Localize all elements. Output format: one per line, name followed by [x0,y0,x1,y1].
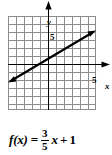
fraction-denominator: 5 [41,141,49,152]
equation-operator: + [60,132,67,148]
y-axis-tick-label-5: 5 [50,33,55,42]
equation-variable: x [52,132,59,148]
fraction-numerator: 3 [41,128,49,139]
plotted-line [8,16,96,110]
function-name: f(x) [9,132,28,148]
y-axis-arrowhead [45,1,51,10]
x-axis-tick-label-5: 5 [92,76,97,85]
coordinate-plane: y x 5 5 [8,16,96,110]
x-axis-label: x [105,82,110,91]
figure-container: y x 5 5 f(x) = 3 5 x + 1 [0,0,112,155]
equation-caption: f(x) = 3 5 x + 1 [9,128,103,152]
x-axis-arrowhead [102,61,111,67]
equation-intercept: 1 [70,132,77,148]
equals-sign: = [31,132,38,148]
y-axis-label: y [47,18,51,27]
slope-fraction: 3 5 [41,128,49,151]
